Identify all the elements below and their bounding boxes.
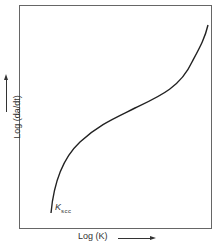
y-axis-label: Log (da/dt) (12, 62, 22, 172)
kscc-annotation: Kscc (55, 202, 72, 214)
kscc-subscript: scc (61, 208, 72, 214)
crack-growth-curve (51, 25, 208, 213)
y-axis-arrow-icon (6, 78, 7, 112)
chart-canvas (0, 0, 213, 243)
x-axis-arrow-icon (118, 238, 152, 239)
x-axis-label: Log (K) (78, 231, 108, 241)
